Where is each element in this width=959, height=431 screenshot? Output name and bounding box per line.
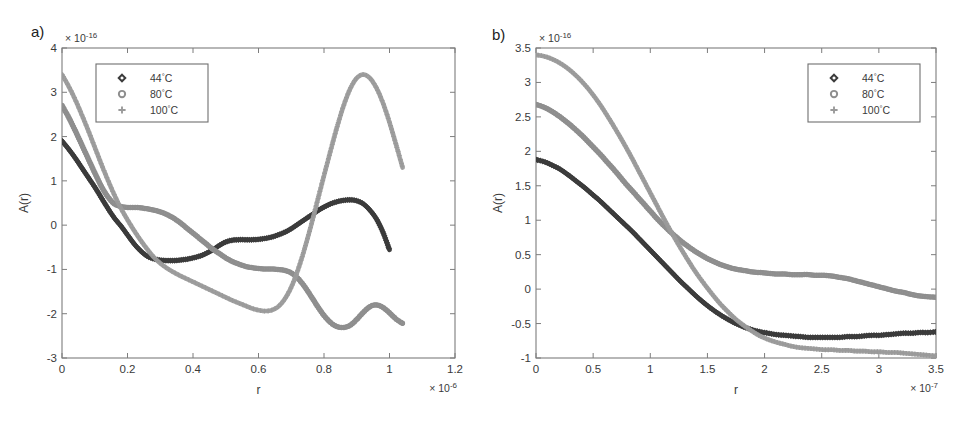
x-axis-label: r: [257, 383, 261, 397]
y-axis-label: A(r): [491, 193, 505, 213]
y-tick-label: 0: [525, 283, 531, 295]
x-tick-label: 1: [647, 363, 653, 375]
x-tick-label: 0.2: [120, 363, 136, 375]
legend-label-80: 80°C: [150, 88, 173, 100]
x-tick-label: 1: [386, 363, 392, 375]
legend-unit-c: C: [877, 88, 885, 100]
y-axis-exponent: × 10-16: [539, 31, 572, 44]
x-axis-exponent: × 10-6: [429, 381, 457, 394]
x-tick-label: 0.4: [185, 363, 202, 375]
y-tick-label: -2: [47, 308, 57, 320]
legend-unit-c: C: [171, 104, 179, 116]
x-tick-label: 0: [59, 363, 65, 375]
x-tick-label: 3: [876, 363, 882, 375]
y-tick-label: 4: [51, 42, 58, 54]
chart-panel-b: b) 00.511.522.533.53.532.521.510.50-0.5-…: [479, 0, 959, 431]
y-axis-exponent-power: -16: [560, 31, 572, 40]
x-tick-label: 2: [761, 363, 767, 375]
figure-canvas: a) 00.20.40.60.811.243210-1-2-3× 10-16× …: [0, 0, 959, 431]
y-axis-label: A(r): [17, 193, 31, 213]
y-tick-label: -3: [47, 352, 57, 364]
y-axis-exponent: × 10-16: [65, 31, 98, 44]
y-tick-label: 2: [525, 145, 531, 157]
y-tick-label: 2: [51, 131, 57, 143]
y-tick-label: 0.5: [515, 249, 531, 261]
x-tick-label: 3.5: [928, 363, 944, 375]
x-tick-label: 0.6: [251, 363, 267, 375]
panel-b-tag: b): [492, 26, 505, 43]
y-axis-exponent-power: -16: [86, 31, 98, 40]
legend-unit-c: C: [877, 72, 885, 84]
legend-unit-c: C: [165, 72, 173, 84]
y-tick-label: 1.5: [515, 180, 531, 192]
chart-panel-a: a) 00.20.40.60.811.243210-1-2-3× 10-16× …: [0, 0, 480, 431]
y-tick-label: 1: [525, 214, 531, 226]
legend-label-80: 80°C: [862, 88, 885, 100]
legend-label-44: 44°C: [862, 72, 885, 84]
x-tick-label: 0: [533, 363, 539, 375]
x-axis-exponent-power: -7: [931, 381, 939, 390]
y-tick-label: 3: [525, 76, 531, 88]
panel-a-plot: 00.20.40.60.811.243210-1-2-3× 10-16× 10-…: [0, 0, 480, 431]
y-tick-label: 3.5: [515, 42, 531, 54]
legend-label-100: 100°C: [862, 104, 891, 116]
legend-unit-c: C: [883, 104, 891, 116]
y-tick-label: 3: [51, 86, 57, 98]
legend-unit-c: C: [165, 88, 173, 100]
y-tick-label: -0.5: [511, 318, 531, 330]
x-tick-label: 0.8: [316, 363, 332, 375]
legend: 44°C80°C100°C: [808, 64, 920, 122]
panel-a-tag: a): [31, 23, 44, 40]
legend: 44°C80°C100°C: [96, 64, 208, 122]
y-tick-label: 1: [51, 175, 57, 187]
x-tick-label: 2.5: [814, 363, 830, 375]
x-tick-label: 1.2: [447, 363, 463, 375]
legend-label-100: 100°C: [150, 104, 179, 116]
y-tick-label: -1: [47, 263, 57, 275]
y-tick-label: -1: [521, 352, 531, 364]
x-axis-exponent: × 10-7: [910, 381, 938, 394]
x-tick-label: 0.5: [585, 363, 601, 375]
legend-label-44: 44°C: [150, 72, 173, 84]
y-tick-label: 2.5: [515, 111, 531, 123]
panel-b-plot: 00.511.522.533.53.532.521.510.50-0.5-1× …: [479, 0, 959, 431]
x-tick-label: 1.5: [699, 363, 715, 375]
y-tick-label: 0: [51, 219, 57, 231]
x-axis-exponent-power: -6: [450, 381, 458, 390]
x-axis-label: r: [734, 383, 738, 397]
